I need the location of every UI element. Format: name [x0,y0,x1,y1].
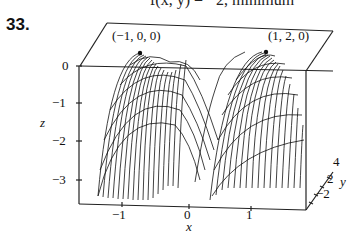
max-point-left [138,51,142,55]
surface-mesh-right [195,52,304,200]
max-point-right [264,50,268,54]
x-tick-minus1: −1 [112,207,126,223]
z-axis-label: z [40,115,45,131]
y-tick-minus2: −2 [316,186,330,202]
y-axis-label: y [340,174,346,190]
surface-mesh-left [98,53,218,200]
plot-box [79,23,333,210]
x-tick-1: 1 [246,207,253,223]
z-tick-minus1: −1 [52,95,66,111]
z-tick-0: 0 [62,58,69,74]
x-axis-label: x [186,219,192,234]
annotation-right-peak: (1, 2, 0) [268,28,309,44]
y-tick-2: 2 [327,171,334,187]
annotation-left-peak: (−1, 0, 0) [112,28,161,44]
z-tick-minus2: −2 [52,133,66,149]
z-tick-minus3: −3 [52,172,66,188]
y-tick-4: 4 [333,154,340,170]
